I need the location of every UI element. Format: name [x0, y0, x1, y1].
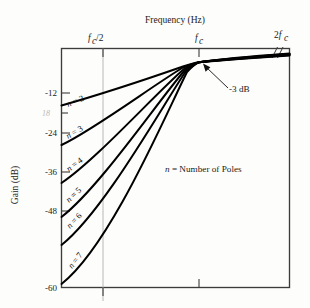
ytick-label-0: -12	[45, 88, 57, 98]
ytick-label-ghost: 18	[42, 109, 50, 118]
ytick-label-1: -24	[45, 128, 57, 138]
y-axis-title: Gain (dB)	[10, 166, 21, 204]
svg-text:c: c	[284, 33, 289, 43]
curve-label-n2: n = 2	[65, 93, 85, 109]
curve-label-n4: n = 4	[64, 155, 85, 174]
ytick-label-4: -60	[45, 283, 57, 293]
ytick-label-3: -48	[45, 206, 57, 216]
xtick-label-2fc: 2f c	[274, 30, 289, 43]
minus3db-arrow-line	[206, 67, 228, 88]
curve-label-n7: n = 7	[66, 250, 85, 271]
legend-note-text: = Number of Poles	[170, 164, 242, 174]
svg-text:2f: 2f	[274, 30, 283, 40]
chart-figure: Frequency (Hz) f c /2 f c 2f c -12 18 -2…	[0, 0, 310, 308]
xtick-label-fc: f c	[195, 33, 204, 46]
xtick-label-fc-half: f c /2	[88, 33, 104, 46]
svg-text:c: c	[199, 36, 204, 46]
minus3db-label: -3 dB	[229, 84, 250, 94]
curve-label-n5: n = 5	[64, 185, 84, 204]
chart-title: Frequency (Hz)	[145, 15, 205, 26]
ytick-label-2: -36	[45, 167, 57, 177]
legend-note: n = Number of Poles	[165, 164, 242, 174]
svg-text:/2: /2	[96, 33, 104, 43]
bode-plot-svg: Frequency (Hz) f c /2 f c 2f c -12 18 -2…	[0, 0, 310, 308]
curve-n5	[62, 54, 290, 217]
